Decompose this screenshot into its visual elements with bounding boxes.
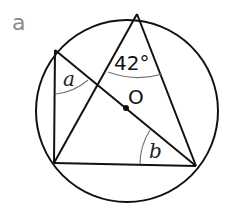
chord-bottom <box>54 163 196 166</box>
circle-theorem-diagram: 42° O a b <box>0 0 228 210</box>
angle-42-label: 42° <box>114 51 149 75</box>
circle <box>36 20 218 202</box>
chord-left <box>54 50 55 163</box>
chord-top-right <box>137 14 196 166</box>
angle-b-label: b <box>149 139 162 163</box>
center-label: O <box>128 85 144 109</box>
angle-a-label: a <box>63 67 75 91</box>
